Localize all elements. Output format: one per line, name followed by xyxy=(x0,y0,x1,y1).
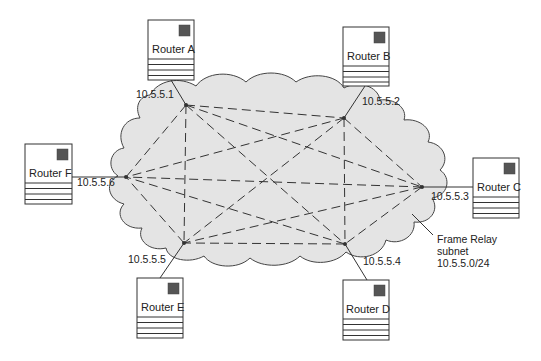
router-f-status-icon xyxy=(57,149,68,160)
router-e[interactable]: Router E xyxy=(137,278,184,338)
subnet-label-line1: Frame Relay xyxy=(437,233,498,245)
subnet-label: Frame Relay subnet 10.5.5.0/24 xyxy=(437,233,498,269)
subnet-label-line2: subnet xyxy=(437,245,469,257)
subnet-label-line3: 10.5.5.0/24 xyxy=(437,257,490,269)
router-a-status-icon xyxy=(179,25,190,36)
router-d-label: Router D xyxy=(346,303,390,315)
router-e-label: Router E xyxy=(141,301,184,313)
router-f-label: Router F xyxy=(29,167,72,179)
router-a-ip: 10.5.5.1 xyxy=(136,88,174,100)
router-f[interactable]: Router F xyxy=(25,144,72,204)
router-e-ip: 10.5.5.5 xyxy=(128,253,166,265)
router-c-label: Router C xyxy=(477,181,521,193)
router-b-ip: 10.5.5.2 xyxy=(362,95,400,107)
router-a-label: Router A xyxy=(152,43,195,55)
router-d[interactable]: Router D xyxy=(343,280,390,340)
frame-relay-diagram: Router A 10.5.5.1 Router B 10.5.5.2 Rout… xyxy=(0,0,541,361)
router-c-status-icon xyxy=(504,163,515,174)
router-a[interactable]: Router A xyxy=(148,20,195,80)
router-b-status-icon xyxy=(374,32,385,43)
router-d-status-icon xyxy=(374,285,385,296)
router-e-status-icon xyxy=(168,283,179,294)
router-b-label: Router B xyxy=(347,50,390,62)
router-d-ip: 10.5.5.4 xyxy=(363,255,401,267)
router-c[interactable]: Router C xyxy=(473,158,521,218)
router-f-ip: 10.5.5.6 xyxy=(77,176,115,188)
router-c-ip: 10.5.5.3 xyxy=(431,190,469,202)
router-b[interactable]: Router B xyxy=(343,27,390,86)
